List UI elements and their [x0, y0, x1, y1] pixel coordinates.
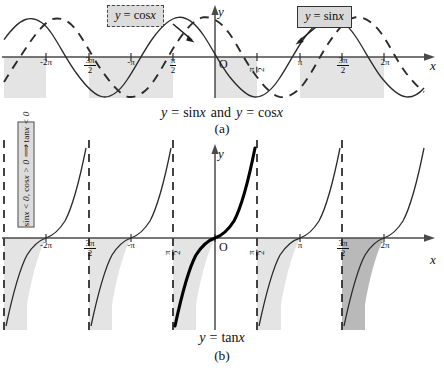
cos-callout-arrow	[173, 24, 195, 42]
cos-callout-var: y	[115, 8, 121, 22]
note-part-5: tan	[21, 131, 31, 142]
panel-a-tick-pi-2-den: 2	[258, 66, 267, 73]
panel-b-tick--3pi-2: 3π2	[75, 239, 105, 258]
panel-b-x-axis-label: x	[430, 252, 436, 268]
cos-callout-arg: x	[150, 8, 156, 22]
tangent-sign-implication-note: sinx < 0, cosx > 0 ⟹ tanx < 0	[18, 122, 35, 228]
sin-callout-label: y=sinx	[297, 6, 352, 28]
caption-a-fn1: sin	[183, 105, 199, 120]
panel-a-tick-2pi: 2π	[371, 58, 399, 67]
panel-b-tick-3pi-2: 3π2	[328, 239, 358, 258]
panel-b-tick-3pi-2-den: 2	[337, 249, 348, 258]
panel-a-tick-3pi-2: 3π2	[328, 56, 358, 75]
note-part-3: cos	[21, 179, 31, 191]
panel-b-y-axis-label: y	[218, 146, 224, 162]
sin-callout-var: y	[305, 9, 311, 23]
panel-a-tick-pi-2: π2	[247, 59, 266, 81]
panel-b-tick--pi: -π	[116, 241, 146, 250]
panel-a-x-axis-label: x	[430, 58, 436, 74]
caption-b-arg1: x	[239, 330, 245, 345]
note-part-1: sin	[21, 216, 31, 227]
caption-a-eq1: =	[167, 105, 183, 120]
panel-a-origin-label: O	[219, 57, 228, 72]
panel-a-tick--3pi-2-den: 2	[84, 66, 95, 75]
trig-graphs-figure: y=cosx y=sinx y x O -2π 3π2 -π π2 π2 π 3…	[0, 0, 444, 368]
panel-b-origin-label: O	[219, 240, 228, 255]
caption-a-eq2: =	[242, 105, 258, 120]
panel-b-caption: y=tanx	[0, 330, 444, 346]
panel-b-id: (b)	[0, 348, 444, 364]
caption-a-arg2: x	[277, 105, 283, 120]
panel-a-tick--pi: -π	[116, 58, 146, 67]
cos-callout-label: y=cosx	[107, 5, 164, 27]
shaded-regions-b	[4, 238, 384, 330]
caption-b-eq1: =	[205, 330, 221, 345]
note-part-6: x < 0	[21, 112, 31, 131]
panel-b-tick-pi: π	[288, 241, 312, 250]
panel-a-caption: y=sinxandy=cosx	[0, 105, 444, 121]
cos-callout-eq: =	[121, 8, 134, 22]
asymptotes-b	[4, 140, 342, 330]
panel-a-tick--pi-2: π2	[159, 56, 187, 75]
cos-callout-fn: cos	[134, 8, 151, 22]
sin-callout-arrow	[296, 27, 317, 44]
panel-a-y-axis-label: y	[218, 4, 224, 20]
sin-callout-eq: =	[311, 9, 324, 23]
caption-b-fn1: tan	[221, 330, 238, 345]
note-part-4: x > 0 ⟹	[21, 142, 31, 179]
sin-callout-fn: sin	[324, 9, 339, 23]
panel-b-tick--2pi: -2π	[30, 241, 62, 250]
panel-a-tick-pi: π	[288, 58, 312, 67]
panel-a-tick-3pi-2-den: 2	[337, 66, 348, 75]
caption-a-conj: and	[206, 105, 236, 120]
panel-b-tick--3pi-2-den: 2	[84, 249, 95, 258]
panel-a-tick--pi-2-den: 2	[170, 66, 177, 75]
panel-b-tick-2pi: 2π	[371, 241, 399, 250]
note-part-2: x < 0,	[21, 192, 31, 216]
caption-a-fn2: cos	[258, 105, 277, 120]
sin-callout-arg: x	[338, 9, 344, 23]
caption-a-arg1: x	[200, 105, 206, 120]
panel-a-tick--2pi: -2π	[30, 58, 62, 67]
panel-b-tick-pi-2-den: 2	[258, 249, 267, 256]
panel-a-tick--3pi-2: 3π2	[75, 56, 105, 75]
panel-b-tick--pi-2: π2	[163, 242, 182, 264]
panel-b-tick--pi-2-den: 2	[174, 249, 183, 256]
panel-b-tick-pi-2: π2	[247, 242, 266, 264]
